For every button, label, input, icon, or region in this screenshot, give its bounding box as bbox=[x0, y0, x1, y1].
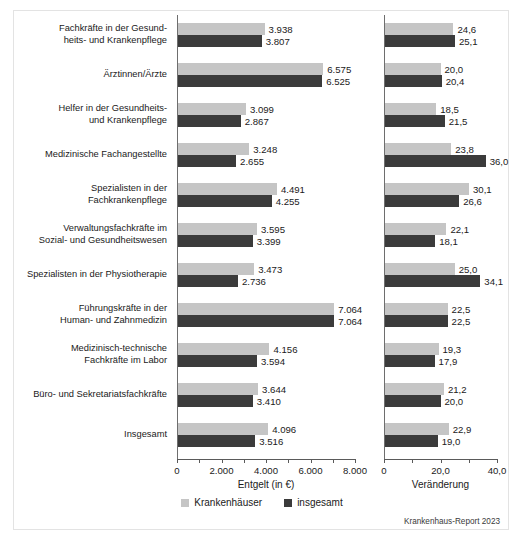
chart-row: Spezialisten in der Fachkrankenpflege4.4… bbox=[14, 175, 510, 215]
chart-row: Spezialisten in der Physiotherapie3.4732… bbox=[14, 255, 510, 295]
legend-item: insgesamt bbox=[284, 497, 343, 508]
axis-major-tick bbox=[384, 459, 385, 463]
legend-swatch-icon bbox=[181, 499, 189, 507]
chart-figure: Fachkräfte in der Gesund- heits- und Kra… bbox=[13, 10, 509, 530]
panel-veraenderung: 19,317,9 bbox=[384, 335, 510, 375]
chart-row: Fachkräfte in der Gesund- heits- und Kra… bbox=[14, 15, 510, 55]
bar-value-label: 22,5 bbox=[448, 304, 471, 315]
legend-item: Krankenhäuser bbox=[181, 497, 262, 508]
bar-entgelt-krankenhaeuser bbox=[177, 103, 246, 115]
bar-value-label: 19,3 bbox=[439, 344, 462, 355]
chart-rows: Fachkräfte in der Gesund- heits- und Kra… bbox=[14, 15, 510, 455]
y-axis-baseline-veraenderung bbox=[384, 15, 385, 459]
chart-source: Krankenhaus-Report 2023 bbox=[404, 517, 500, 526]
bar-value-label: 3.473 bbox=[254, 264, 282, 275]
panel-entgelt: 3.9383.807 bbox=[177, 15, 369, 55]
panel-entgelt: 4.1563.594 bbox=[177, 335, 369, 375]
bar-entgelt-insgesamt bbox=[177, 195, 272, 207]
bar-value-label: 18,5 bbox=[436, 104, 459, 115]
bar-entgelt-krankenhaeuser bbox=[177, 343, 269, 355]
bar-value-label: 23,8 bbox=[451, 144, 474, 155]
legend-label: insgesamt bbox=[297, 497, 343, 508]
axis-minor-tick bbox=[244, 459, 245, 463]
axis-title-entgelt: Entgelt (in €) bbox=[238, 479, 295, 490]
bar-value-label: 30,1 bbox=[469, 184, 492, 195]
axis-major-tick bbox=[355, 459, 356, 463]
bar-value-label: 3.410 bbox=[253, 396, 281, 407]
bar-value-label: 7.064 bbox=[334, 316, 362, 327]
bar-entgelt-insgesamt bbox=[177, 275, 238, 287]
bar-value-label: 3.938 bbox=[265, 24, 293, 35]
panel-entgelt: 3.2482.655 bbox=[177, 135, 369, 175]
bar-veraenderung-insgesamt bbox=[384, 355, 435, 367]
bar-veraenderung-insgesamt bbox=[384, 435, 438, 447]
panel-entgelt: 3.5953.399 bbox=[177, 215, 369, 255]
bar-value-label: 4.491 bbox=[277, 184, 305, 195]
bar-value-label: 4.156 bbox=[269, 344, 297, 355]
bar-value-label: 34,1 bbox=[480, 276, 503, 287]
bar-veraenderung-krankenhaeuser bbox=[384, 223, 446, 235]
bar-value-label: 2.655 bbox=[236, 156, 264, 167]
bar-entgelt-krankenhaeuser bbox=[177, 263, 254, 275]
category-label: Helfer in der Gesundheits- und Krankenpf… bbox=[14, 95, 172, 135]
bar-value-label: 17,9 bbox=[435, 356, 458, 367]
category-label: Fachkräfte in der Gesund- heits- und Kra… bbox=[14, 15, 172, 55]
bar-entgelt-krankenhaeuser bbox=[177, 223, 257, 235]
bar-entgelt-insgesamt bbox=[177, 355, 257, 367]
bar-entgelt-krankenhaeuser bbox=[177, 63, 323, 75]
bar-veraenderung-krankenhaeuser bbox=[384, 183, 469, 195]
axis-major-tick bbox=[266, 459, 267, 463]
bar-value-label: 21,5 bbox=[445, 116, 468, 127]
bar-value-label: 6.575 bbox=[323, 64, 351, 75]
bar-value-label: 18,1 bbox=[435, 236, 458, 247]
bar-entgelt-insgesamt bbox=[177, 75, 322, 87]
category-label: Medizinisch-technische Fachkräfte im Lab… bbox=[14, 335, 172, 375]
bar-veraenderung-insgesamt bbox=[384, 395, 441, 407]
panel-veraenderung: 24,625,1 bbox=[384, 15, 510, 55]
category-label: Medizinische Fachangestellte bbox=[14, 135, 172, 175]
chart-row: Medizinisch-technische Fachkräfte im Lab… bbox=[14, 335, 510, 375]
chart-row: Verwaltungsfachkräfte im Sozial- und Ges… bbox=[14, 215, 510, 255]
bar-value-label: 3.099 bbox=[246, 104, 274, 115]
chart-row: Insgesamt4.0963.51622,919,0 bbox=[14, 415, 510, 455]
y-axis-baseline-entgelt bbox=[177, 15, 178, 459]
bar-entgelt-krankenhaeuser bbox=[177, 423, 268, 435]
chart-plot-area: Fachkräfte in der Gesund- heits- und Kra… bbox=[14, 11, 510, 531]
bar-entgelt-insgesamt bbox=[177, 235, 253, 247]
panel-entgelt: 3.6443.410 bbox=[177, 375, 369, 415]
bar-entgelt-krankenhaeuser bbox=[177, 383, 258, 395]
panel-entgelt: 7.0647.064 bbox=[177, 295, 369, 335]
axis-minor-tick bbox=[288, 459, 289, 463]
bar-veraenderung-insgesamt bbox=[384, 35, 455, 47]
bar-value-label: 3.248 bbox=[249, 144, 277, 155]
category-label: Insgesamt bbox=[14, 415, 172, 455]
axis-tick-label: 4.000 bbox=[254, 465, 278, 476]
bar-entgelt-insgesamt bbox=[177, 155, 236, 167]
bar-veraenderung-krankenhaeuser bbox=[384, 303, 448, 315]
chart-row: Führungskräfte in der Human- und Zahnmed… bbox=[14, 295, 510, 335]
bar-entgelt-krankenhaeuser bbox=[177, 303, 334, 315]
legend-swatch-icon bbox=[284, 499, 292, 507]
axis-minor-tick bbox=[469, 459, 470, 463]
bar-value-label: 20,0 bbox=[441, 396, 464, 407]
bar-veraenderung-krankenhaeuser bbox=[384, 423, 449, 435]
bar-entgelt-insgesamt bbox=[177, 315, 334, 327]
category-label: Ärztinnen/Ärzte bbox=[14, 55, 172, 95]
axis-major-tick bbox=[177, 459, 178, 463]
bar-value-label: 7.064 bbox=[334, 304, 362, 315]
bar-value-label: 26,6 bbox=[459, 196, 482, 207]
panel-entgelt: 4.4914.255 bbox=[177, 175, 369, 215]
bar-veraenderung-krankenhaeuser bbox=[384, 103, 436, 115]
panel-veraenderung: 30,126,6 bbox=[384, 175, 510, 215]
bar-value-label: 4.255 bbox=[272, 196, 300, 207]
axis-tick-label: 0 bbox=[381, 465, 386, 476]
axis-major-tick bbox=[441, 459, 442, 463]
category-label: Büro- und Sekretariatsfachkräfte bbox=[14, 375, 172, 415]
axis-major-tick bbox=[311, 459, 312, 463]
bar-entgelt-krankenhaeuser bbox=[177, 143, 249, 155]
axis-tick-label: 0 bbox=[174, 465, 179, 476]
bar-veraenderung-krankenhaeuser bbox=[384, 63, 441, 75]
bar-value-label: 21,2 bbox=[444, 384, 467, 395]
bar-value-label: 4.096 bbox=[268, 424, 296, 435]
bar-value-label: 19,0 bbox=[438, 436, 461, 447]
